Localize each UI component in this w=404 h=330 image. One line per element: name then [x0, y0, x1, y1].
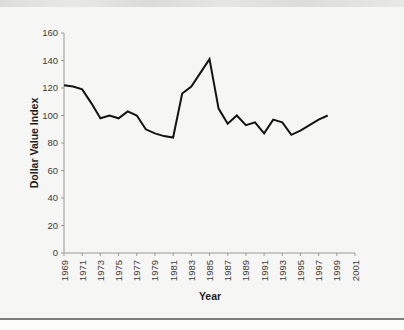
x-axis-tick-label: 1977	[131, 260, 142, 281]
data-series-line	[64, 59, 328, 137]
x-axis-tick-label: 1999	[331, 260, 342, 281]
page-footer-space	[0, 320, 404, 330]
x-axis-tick-label: 1991	[259, 260, 270, 281]
y-axis-tick-label: 40	[47, 192, 58, 203]
x-axis-tick-label: 1971	[77, 260, 88, 281]
y-axis-tick-label: 100	[42, 110, 58, 121]
y-axis-tick-label: 80	[47, 137, 58, 148]
x-axis-tick-label: 1997	[313, 260, 324, 281]
y-axis-tick-label: 140	[42, 55, 58, 66]
y-axis-tick-label: 120	[42, 82, 58, 93]
x-axis-tick-label: 2001	[350, 260, 361, 281]
x-axis-tick-label: 1975	[113, 260, 124, 281]
y-axis-tick-label: 160	[42, 27, 58, 38]
y-axis-tick-label: 0	[53, 247, 58, 258]
x-axis-tick-label: 1973	[95, 260, 106, 281]
axes-lines	[64, 33, 355, 253]
y-axis-title: Dollar Value Index	[28, 98, 40, 189]
x-axis-tick-label: 1983	[186, 260, 197, 281]
x-axis-tick-label: 1979	[149, 260, 160, 281]
x-axis-tick-label: 1995	[295, 260, 306, 281]
x-axis-tick-label: 1987	[222, 260, 233, 281]
x-axis-tick-label: 1985	[204, 260, 215, 281]
x-axis-tick-label: 1989	[240, 260, 251, 281]
y-axis-tick-label: 20	[47, 220, 58, 231]
chart-plot-area: 0204060801001201401601969197119731975197…	[42, 27, 360, 281]
x-axis-tick-label: 1981	[168, 260, 179, 281]
x-axis-tick-label: 1969	[59, 260, 70, 281]
y-axis-tick-label: 60	[47, 165, 58, 176]
x-axis-tick-label: 1993	[277, 260, 288, 281]
x-axis-title: Year	[199, 290, 221, 302]
line-chart: 0204060801001201401601969197119731975197…	[0, 0, 404, 330]
